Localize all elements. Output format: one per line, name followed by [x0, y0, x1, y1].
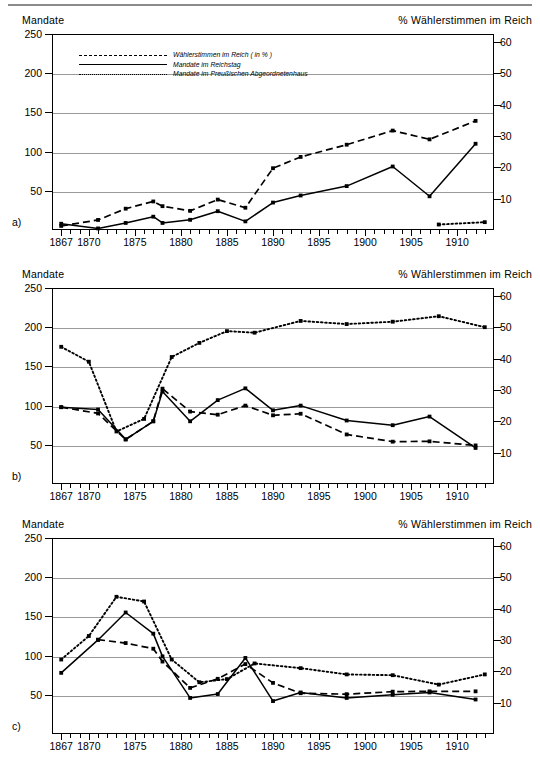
data-point-marker: [188, 696, 192, 700]
data-point-marker: [483, 325, 487, 329]
data-point-marker: [151, 419, 155, 423]
data-point-marker: [170, 658, 174, 662]
data-point-marker: [115, 430, 119, 434]
data-point-marker: [142, 417, 146, 421]
data-point-marker: [299, 194, 303, 198]
data-point-marker: [188, 209, 192, 213]
data-point-marker: [216, 398, 220, 402]
data-point-marker: [142, 600, 146, 604]
data-point-marker: [299, 155, 303, 159]
data-point-marker: [96, 227, 100, 231]
data-point-marker: [391, 440, 395, 444]
data-point-marker: [188, 419, 192, 423]
data-point-marker: [161, 204, 165, 208]
series-line: [61, 144, 475, 229]
series-line: [61, 388, 475, 448]
legend-item-label: Mandate im Preußischen Abgeordnetenhaus: [173, 69, 308, 79]
chart-panel-c: Mandate% Wählerstimmen im Reich250200150…: [0, 516, 540, 768]
data-point-marker: [391, 165, 395, 169]
data-point-marker: [428, 415, 432, 419]
data-point-marker: [428, 194, 432, 198]
header-rule: [8, 4, 532, 6]
data-point-marker: [299, 404, 303, 408]
data-point-marker: [391, 129, 395, 133]
data-point-marker: [253, 662, 257, 666]
data-point-marker: [345, 419, 349, 423]
data-point-marker: [151, 632, 155, 636]
chart-panel-a: Mandate% Wählerstimmen im Reich250200150…: [0, 12, 540, 264]
data-point-marker: [243, 662, 247, 666]
data-point-marker: [474, 119, 478, 123]
data-point-marker: [151, 215, 155, 219]
data-point-marker: [87, 634, 91, 638]
data-point-marker: [161, 660, 165, 664]
data-point-marker: [243, 219, 247, 223]
legend-item-label: Wählerstimmen im Reich ( in % ): [173, 50, 272, 60]
data-point-marker: [437, 314, 441, 318]
data-point-marker: [271, 681, 275, 685]
data-point-marker: [161, 654, 165, 658]
data-point-marker: [96, 412, 100, 416]
data-point-marker: [299, 666, 303, 670]
data-point-marker: [428, 439, 432, 443]
data-point-marker: [299, 691, 303, 695]
data-point-marker: [271, 699, 275, 703]
data-point-marker: [428, 691, 432, 695]
data-point-marker: [124, 221, 128, 225]
data-point-marker: [391, 320, 395, 324]
data-point-marker: [437, 223, 441, 227]
data-point-marker: [96, 408, 100, 412]
data-point-marker: [96, 638, 100, 642]
data-point-marker: [197, 341, 201, 345]
data-point-marker: [391, 423, 395, 427]
legend-key-solid-icon: [75, 60, 167, 70]
legend-item-label: Mandate im Reichstag: [173, 60, 241, 70]
data-point-marker: [391, 673, 395, 677]
data-point-marker: [299, 319, 303, 323]
chart-panel-b: Mandate% Wählerstimmen im Reich250200150…: [0, 266, 540, 516]
series-layer: [0, 266, 540, 518]
data-point-marker: [345, 433, 349, 437]
data-point-marker: [59, 345, 63, 349]
data-point-marker: [243, 386, 247, 390]
data-point-marker: [483, 673, 487, 677]
data-point-marker: [271, 166, 275, 170]
data-point-marker: [437, 683, 441, 687]
data-point-marker: [428, 137, 432, 141]
data-point-marker: [474, 698, 478, 702]
data-point-marker: [170, 355, 174, 359]
data-point-marker: [474, 689, 478, 693]
series-line: [61, 597, 485, 685]
legend-item: Mandate im Reichstag: [75, 60, 308, 70]
data-point-marker: [124, 641, 128, 645]
data-point-marker: [197, 680, 201, 684]
data-point-marker: [59, 405, 63, 409]
data-point-marker: [115, 595, 119, 599]
data-point-marker: [124, 437, 128, 441]
legend-item: Mandate im Preußischen Abgeordnetenhaus: [75, 69, 308, 79]
data-point-marker: [474, 446, 478, 450]
data-point-marker: [345, 673, 349, 677]
data-point-marker: [225, 329, 229, 333]
data-point-marker: [299, 412, 303, 416]
series-line: [61, 121, 475, 226]
data-point-marker: [216, 209, 220, 213]
data-point-marker: [59, 671, 63, 675]
data-point-marker: [483, 220, 487, 224]
data-point-marker: [243, 656, 247, 660]
data-point-marker: [345, 143, 349, 147]
data-point-marker: [188, 410, 192, 414]
data-point-marker: [391, 693, 395, 697]
data-point-marker: [271, 408, 275, 412]
data-point-marker: [59, 658, 63, 662]
chart-legend: Wählerstimmen im Reich ( in % )Mandate i…: [75, 50, 308, 79]
data-point-marker: [216, 692, 220, 696]
data-point-marker: [124, 611, 128, 615]
series-line: [61, 612, 475, 701]
data-point-marker: [161, 390, 165, 394]
data-point-marker: [271, 201, 275, 205]
data-point-marker: [96, 218, 100, 222]
data-point-marker: [225, 677, 229, 681]
data-point-marker: [345, 696, 349, 700]
data-point-marker: [161, 221, 165, 225]
